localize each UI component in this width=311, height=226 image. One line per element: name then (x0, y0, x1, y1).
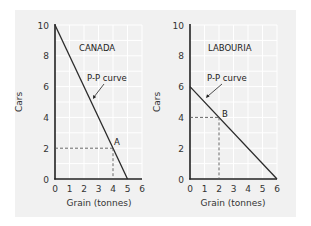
canada-y-ticks: 0 2 4 6 8 10 (38, 21, 50, 185)
canada-title: CANADA (79, 43, 115, 53)
svg-text:0: 0 (43, 175, 49, 185)
svg-text:0: 0 (52, 184, 58, 194)
svg-text:4: 4 (110, 184, 116, 194)
labouria-x-label: Grain (tonnes) (201, 198, 266, 208)
labouria-chart: B LABOURIA P-P curve 0 2 4 6 8 10 0 1 2 … (152, 21, 280, 209)
svg-text:4: 4 (245, 184, 251, 194)
svg-text:2: 2 (216, 184, 222, 194)
canada-y-label: Cars (14, 92, 24, 112)
svg-text:6: 6 (43, 82, 49, 92)
svg-text:8: 8 (43, 51, 49, 61)
svg-text:5: 5 (125, 184, 131, 194)
pp-curves-figure: A CANADA P-P curve 0 2 4 6 8 10 0 1 2 3 … (0, 0, 311, 226)
svg-text:3: 3 (231, 184, 237, 194)
canada-x-ticks: 0 1 2 3 4 5 6 (52, 184, 145, 194)
svg-text:10: 10 (38, 21, 50, 31)
svg-text:6: 6 (274, 184, 280, 194)
canada-curve-label: P-P curve (87, 73, 127, 83)
labouria-point-label: B (222, 109, 228, 119)
svg-text:8: 8 (178, 51, 184, 61)
svg-text:0: 0 (178, 175, 184, 185)
svg-text:6: 6 (178, 82, 184, 92)
labouria-y-label: Cars (152, 92, 162, 112)
labouria-title: LABOURIA (208, 43, 252, 53)
svg-text:2: 2 (43, 144, 49, 154)
svg-text:2: 2 (178, 144, 184, 154)
svg-text:0: 0 (187, 184, 193, 194)
canada-x-label: Grain (tonnes) (67, 198, 132, 208)
labouria-curve-label: P-P curve (207, 73, 247, 83)
svg-text:1: 1 (67, 184, 73, 194)
canada-chart: A CANADA P-P curve 0 2 4 6 8 10 0 1 2 3 … (14, 21, 145, 209)
labouria-x-ticks: 0 1 2 3 4 5 6 (187, 184, 280, 194)
svg-text:4: 4 (43, 113, 49, 123)
svg-text:4: 4 (178, 113, 184, 123)
svg-text:10: 10 (173, 21, 185, 31)
svg-text:5: 5 (260, 184, 266, 194)
labouria-y-ticks: 0 2 4 6 8 10 (173, 21, 185, 185)
svg-text:3: 3 (96, 184, 102, 194)
svg-text:6: 6 (139, 184, 145, 194)
svg-text:1: 1 (202, 184, 208, 194)
canada-point-label: A (114, 137, 120, 147)
svg-text:2: 2 (81, 184, 87, 194)
